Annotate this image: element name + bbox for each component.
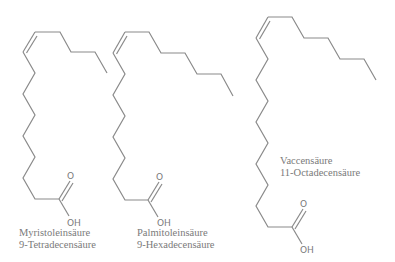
- molecule-palmitoleic-structure: O OH: [113, 32, 233, 228]
- molecule-myristoleic-structure: O OH: [23, 32, 107, 228]
- carbonyl-oxygen-label: O: [300, 199, 307, 209]
- molecule-vaccenic-structure: O OH: [256, 17, 376, 255]
- molecule-vaccenic-caption: Vaccensäure 11-Octadecensäure: [280, 155, 360, 179]
- backbone-chain: [23, 52, 59, 199]
- carbonyl-oxygen-label: O: [67, 171, 74, 181]
- carbonyl-oxygen-label: O: [156, 172, 163, 182]
- hydroxyl-bond: [292, 227, 302, 244]
- backbone-chain: [113, 53, 148, 200]
- hydroxyl-label: OH: [300, 245, 314, 255]
- fatty-acid-diagram: O OH O OH O OH: [0, 0, 395, 262]
- common-name: Palmitoleinsäure: [137, 227, 215, 239]
- systematic-name: 11-Octadecensäure: [280, 167, 360, 179]
- hydroxyl-bond: [59, 199, 69, 216]
- tail-chain: [35, 32, 107, 73]
- hydroxyl-bond: [148, 200, 158, 217]
- molecule-myristoleic-caption: Myristoleinsäure 9-Tetradecensäure: [19, 227, 96, 251]
- systematic-name: 9-Tetradecensäure: [19, 239, 96, 251]
- backbone-chain: [256, 38, 292, 227]
- common-name: Vaccensäure: [280, 155, 360, 167]
- common-name: Myristoleinsäure: [19, 227, 96, 239]
- tail-chain: [125, 32, 233, 96]
- tail-chain: [268, 17, 376, 80]
- molecule-palmitoleic-caption: Palmitoleinsäure 9-Hexadecensäure: [137, 227, 215, 251]
- systematic-name: 9-Hexadecensäure: [137, 239, 215, 251]
